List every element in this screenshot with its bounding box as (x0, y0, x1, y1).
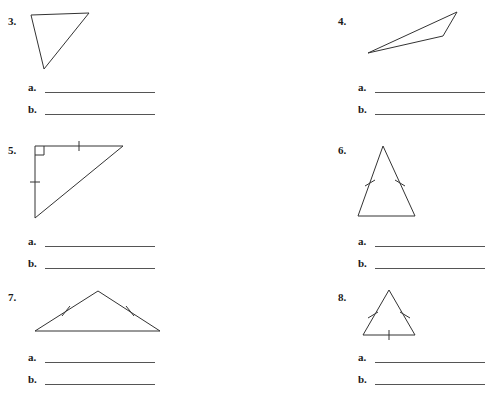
answer-blank-b[interactable] (375, 384, 485, 385)
answer-blank-b[interactable] (45, 384, 155, 385)
answer-label-a: a. (28, 82, 36, 93)
triangle-figure-equilateral-triangle (355, 286, 425, 342)
answer-label-b: b. (28, 104, 37, 115)
answer-label-a: a. (358, 236, 366, 247)
answer-blank-b[interactable] (375, 268, 485, 269)
triangle-outline (358, 146, 415, 216)
problem-number: 6. (338, 145, 346, 156)
triangle-figure-thin-obtuse-triangle (360, 6, 465, 64)
triangle-figure-tall-isosceles-triangle (352, 142, 424, 222)
answer-blank-a[interactable] (45, 246, 155, 247)
worksheet-page: 3.a.b.4.a.b.5.a.b.6.a.b.7.a.b.8.a.b. (0, 0, 495, 409)
triangle-figure-scalene-triangle-inverted (25, 8, 105, 76)
answer-blank-b[interactable] (45, 268, 155, 269)
answer-label-a: a. (28, 236, 36, 247)
triangle-outline (31, 13, 89, 69)
problem-number: 8. (338, 292, 346, 303)
answer-blank-a[interactable] (45, 362, 155, 363)
answer-label-b: b. (28, 258, 37, 269)
triangle-outline (35, 146, 123, 218)
answer-label-b: b. (358, 258, 367, 269)
answer-blank-b[interactable] (45, 114, 155, 115)
answer-label-a: a. (28, 352, 36, 363)
problem-number: 5. (8, 145, 16, 156)
answer-label-a: a. (358, 82, 366, 93)
triangle-figure-isosceles-right-triangle (30, 140, 130, 230)
answer-label-b: b. (28, 374, 37, 385)
problem-number: 7. (8, 292, 16, 303)
triangle-outline (363, 290, 415, 335)
triangle-outline (368, 12, 457, 53)
answer-label-b: b. (358, 104, 367, 115)
congruence-tick-mark (395, 180, 405, 186)
triangle-figure-wide-isosceles-triangle (30, 286, 170, 338)
answer-blank-b[interactable] (375, 114, 485, 115)
congruence-tick-mark (365, 180, 375, 186)
right-angle-marker-icon (35, 146, 44, 155)
answer-blank-a[interactable] (375, 362, 485, 363)
congruence-tick-mark (62, 306, 70, 316)
triangle-outline (35, 291, 160, 331)
answer-label-a: a. (358, 352, 366, 363)
congruence-tick-mark (126, 306, 134, 316)
answer-blank-a[interactable] (45, 92, 155, 93)
problem-number: 4. (338, 16, 346, 27)
answer-blank-a[interactable] (375, 92, 485, 93)
answer-blank-a[interactable] (375, 246, 485, 247)
problem-number: 3. (8, 16, 16, 27)
answer-label-b: b. (358, 374, 367, 385)
